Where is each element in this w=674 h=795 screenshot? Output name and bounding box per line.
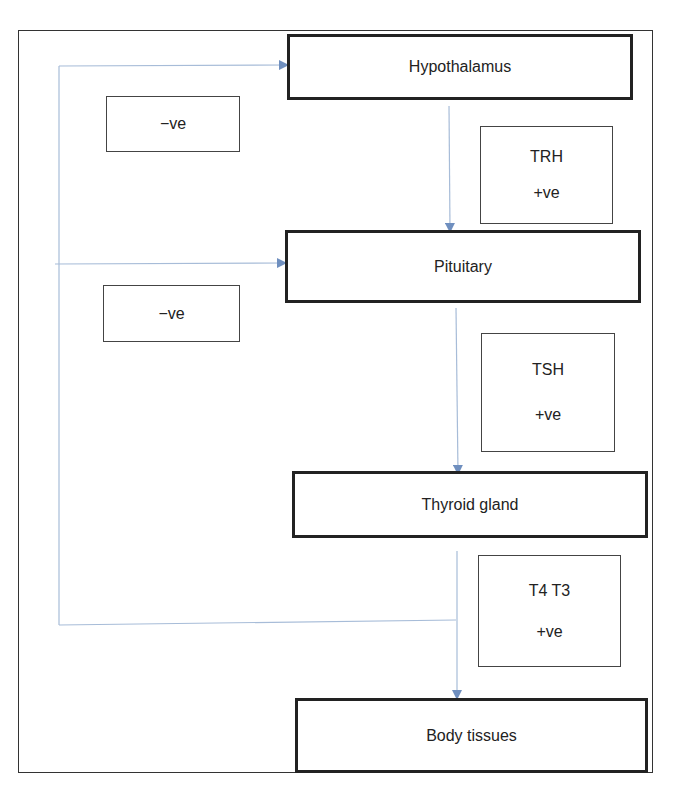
node-body-tissues: Body tissues [295, 698, 648, 773]
annotation-negative-1: −ve [106, 96, 240, 152]
tsh-arrow [456, 308, 458, 473]
hormone-label: TRH [530, 148, 563, 166]
effect-label: +ve [536, 623, 562, 641]
annotation-label: −ve [160, 115, 186, 133]
trh-arrow [449, 106, 450, 231]
feedback-arrow-pituitary [55, 263, 285, 264]
annotation-negative-2: −ve [103, 285, 240, 342]
hormone-label: T4 T3 [529, 582, 571, 600]
node-pituitary: Pituitary [285, 230, 641, 303]
hormone-label: TSH [532, 361, 564, 379]
annotation-trh: TRH +ve [480, 126, 613, 224]
effect-label: +ve [533, 184, 559, 202]
annotation-label: −ve [158, 305, 184, 323]
node-label: Hypothalamus [409, 58, 511, 76]
node-hypothalamus: Hypothalamus [287, 34, 633, 100]
node-label: Body tissues [426, 727, 517, 745]
annotation-tsh: TSH +ve [481, 333, 615, 452]
effect-label: +ve [535, 406, 561, 424]
node-label: Thyroid gland [422, 496, 519, 514]
annotation-t4-t3: T4 T3 +ve [478, 555, 621, 667]
node-thyroid-gland: Thyroid gland [292, 471, 648, 538]
node-label: Pituitary [434, 258, 492, 276]
feedback-arrow-hypothalamus [59, 65, 287, 66]
